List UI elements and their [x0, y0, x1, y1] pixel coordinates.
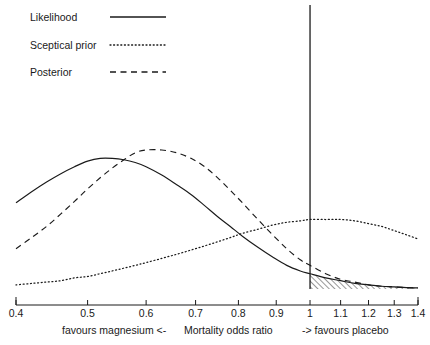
x-tick-label: 0.9	[269, 307, 284, 319]
axis-captions: favours magnesium <- Mortality odds rati…	[62, 324, 389, 336]
x-axis-tick-labels: 0.40.50.60.70.80.911.11.21.31.4	[9, 307, 426, 319]
mortality-odds-ratio-chart: Likelihood Sceptical prior Posterior 0.4…	[0, 0, 430, 345]
x-tick-label: 1.3	[387, 307, 402, 319]
x-tick-label: 0.4	[9, 307, 24, 319]
legend-label-sceptical-prior: Sceptical prior	[30, 39, 97, 51]
caption-favours-magnesium: favours magnesium <-	[62, 324, 167, 336]
x-axis: 0.40.50.60.70.80.911.11.21.31.4	[9, 297, 426, 319]
legend-item-posterior: Posterior	[30, 66, 166, 78]
x-tick-label: 1.2	[361, 307, 376, 319]
x-tick-label: 1	[307, 307, 313, 319]
x-tick-label: 0.8	[231, 307, 246, 319]
legend: Likelihood Sceptical prior Posterior	[30, 11, 166, 78]
legend-item-likelihood: Likelihood	[30, 11, 166, 23]
legend-item-sceptical-prior: Sceptical prior	[30, 39, 166, 51]
caption-favours-placebo: -> favours placebo	[302, 324, 389, 336]
x-tick-label: 1.4	[411, 307, 426, 319]
curve-sceptical-prior	[16, 219, 418, 284]
shaded-tail-region	[310, 274, 418, 289]
x-tick-label: 0.7	[188, 307, 203, 319]
x-tick-label: 1.1	[333, 307, 348, 319]
x-tick-label: 0.6	[139, 307, 154, 319]
legend-label-likelihood: Likelihood	[30, 11, 77, 23]
legend-label-posterior: Posterior	[30, 66, 73, 78]
curve-posterior	[16, 150, 418, 289]
x-tick-label: 0.5	[80, 307, 95, 319]
caption-mortality-odds-ratio: Mortality odds ratio	[184, 324, 273, 336]
x-axis-line	[16, 297, 418, 305]
